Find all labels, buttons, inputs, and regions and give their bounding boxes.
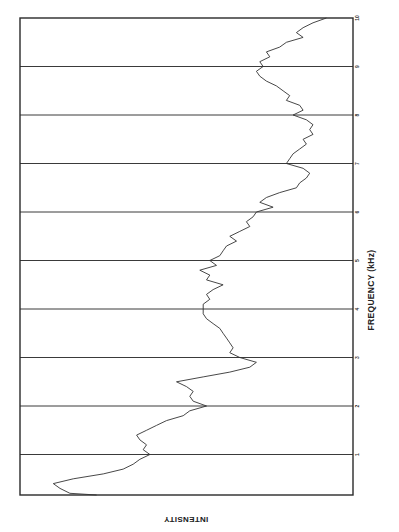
y-axis-label: INTENSITY: [163, 515, 208, 524]
frequency-tick-labels: 12345678910: [354, 15, 360, 456]
intensity-curve: [53, 18, 326, 495]
tick-label-4: 4: [354, 307, 360, 310]
tick-label-3: 3: [354, 356, 360, 359]
plot-frame: [20, 18, 353, 495]
tick-label-2: 2: [354, 404, 360, 407]
tick-label-5: 5: [354, 259, 360, 262]
tick-label-9: 9: [354, 65, 360, 68]
tick-label-6: 6: [354, 210, 360, 213]
x-axis-label: FREQUENCY (kHz): [366, 250, 376, 331]
tick-label-7: 7: [354, 162, 360, 165]
tick-label-10: 10: [354, 15, 360, 21]
spectrum-chart: 12345678910 FREQUENCY (kHz) INTENSITY: [0, 0, 399, 532]
frequency-gridlines: [20, 67, 353, 455]
tick-label-8: 8: [354, 113, 360, 116]
tick-label-1: 1: [354, 453, 360, 456]
